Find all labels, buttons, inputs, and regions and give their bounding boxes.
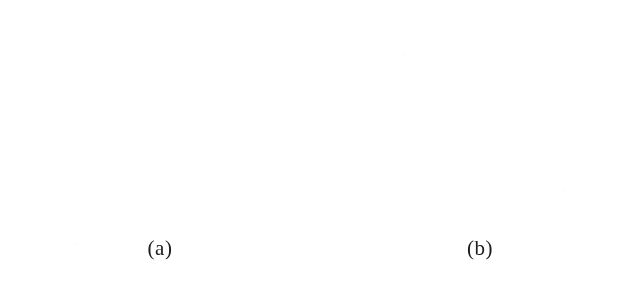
panel-a: (a): [0, 0, 320, 297]
panel-a-caption: (a): [0, 236, 320, 261]
figure-container: (a) (b): [0, 0, 640, 297]
panel-b-caption: (b): [320, 236, 640, 261]
panel-b: (b): [320, 0, 640, 297]
plot-b-3d-axes: [320, 0, 640, 250]
plot-a-3d-axes: [0, 0, 320, 250]
